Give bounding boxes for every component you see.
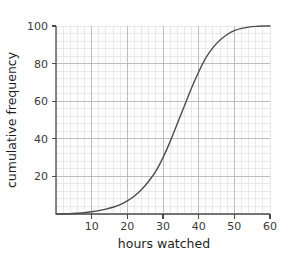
chart-figure: 102030405060 20406080100 hours watched c… [0, 0, 281, 254]
y-tick-label: 80 [34, 58, 48, 71]
x-axis-title: hours watched [118, 236, 210, 251]
y-axis-title: cumulative frequency [4, 51, 19, 188]
y-tick-label: 60 [34, 95, 48, 108]
x-tick-label: 50 [227, 220, 241, 233]
x-tick-label: 30 [156, 220, 170, 233]
x-tick-label: 40 [192, 220, 206, 233]
y-tick-label: 20 [34, 170, 48, 183]
x-tick-label: 20 [120, 220, 134, 233]
y-tick-label: 100 [27, 20, 48, 33]
x-tick-label: 10 [85, 220, 99, 233]
y-tick-label: 40 [34, 133, 48, 146]
cumulative-frequency-chart: 102030405060 20406080100 hours watched c… [0, 0, 281, 254]
x-tick-label: 60 [263, 220, 277, 233]
